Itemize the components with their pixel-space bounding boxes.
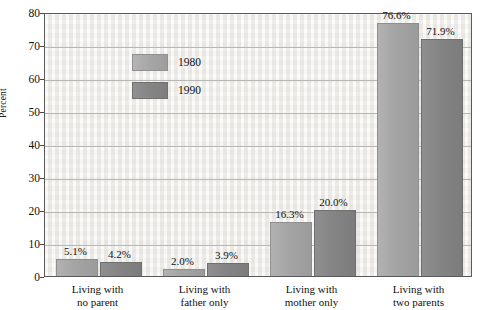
category-label-4: Living withtwo parents [393, 283, 445, 309]
y-tick-label: 50 [2, 106, 40, 118]
category-label-line: Living with [285, 283, 338, 296]
bar-1980-2[interactable] [163, 269, 205, 276]
bar-1980-3[interactable] [270, 222, 312, 276]
category-label-line: Living with [179, 283, 231, 296]
bar-1990-2[interactable] [207, 263, 249, 276]
y-tick-label: 70 [2, 40, 40, 52]
category-label-2: Living withfather only [179, 283, 231, 309]
bar-1990-1[interactable] [100, 262, 142, 276]
y-tick-label: 20 [2, 205, 40, 217]
bar-value-label: 76.6% [382, 9, 410, 21]
legend-label-1990: 1990 [178, 84, 201, 96]
bar-value-label: 71.9% [426, 25, 454, 37]
y-tick-label: 0 [2, 271, 40, 283]
legend-swatch-1990 [132, 82, 168, 99]
category-label-line: two parents [393, 296, 445, 309]
bar-value-label: 4.2% [108, 248, 131, 260]
bar-1980-4[interactable] [377, 23, 419, 276]
category-label-line: mother only [285, 296, 338, 309]
bar-1980-1[interactable] [56, 259, 98, 276]
category-label-line: father only [179, 296, 231, 309]
bar-value-label: 5.1% [64, 245, 87, 257]
category-label-line: Living with [72, 283, 124, 296]
bar-value-label: 20.0% [319, 196, 347, 208]
y-tick-label: 60 [2, 73, 40, 85]
y-tick-label: 30 [2, 172, 40, 184]
category-label-3: Living withmother only [285, 283, 338, 309]
category-label-1: Living withno parent [72, 283, 124, 309]
bar-value-label: 3.9% [215, 249, 238, 261]
y-tick-mark [40, 277, 44, 278]
legend-label-1980: 1980 [178, 56, 201, 68]
y-tick-label: 40 [2, 139, 40, 151]
y-tick-label: 80 [2, 7, 40, 19]
bar-1990-4[interactable] [421, 39, 463, 276]
bar-1990-3[interactable] [314, 210, 356, 276]
category-label-line: Living with [393, 283, 445, 296]
legend-swatch-1980 [132, 54, 168, 71]
y-tick-label: 10 [2, 238, 40, 250]
category-label-line: no parent [72, 296, 124, 309]
y-axis-ticks: 01020304050607080 [0, 0, 40, 310]
bar-value-label: 16.3% [275, 208, 303, 220]
bar-value-label: 2.0% [171, 255, 194, 267]
plot-area: 19801990 [44, 13, 472, 277]
chart-root: Percent 01020304050607080 19801990 Livin… [0, 0, 484, 310]
